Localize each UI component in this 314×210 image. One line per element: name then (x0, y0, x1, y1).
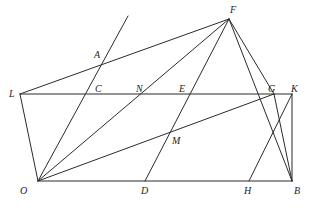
segment-F-O (38, 19, 229, 181)
point-label-L: L (9, 89, 15, 99)
segment-F-D (145, 19, 229, 181)
point-label-D: D (141, 186, 148, 196)
point-label-O: O (20, 186, 27, 196)
point-label-F: F (230, 5, 236, 15)
point-label-E: E (179, 84, 185, 94)
point-label-N: N (136, 84, 143, 94)
point-label-C: C (95, 84, 102, 94)
segment-L-O (20, 94, 38, 181)
segment-G-B (274, 94, 292, 181)
geometry-figure: L O A C N E M D H B F G K (0, 0, 314, 210)
point-label-G: G (268, 84, 275, 94)
segment-L-F (20, 19, 229, 94)
segments-group (20, 16, 292, 181)
point-label-A: A (94, 50, 100, 60)
point-label-M: M (172, 136, 180, 146)
point-label-H: H (244, 186, 251, 196)
segment-K-H (249, 94, 292, 181)
point-label-B: B (294, 186, 300, 196)
figure-canvas (0, 0, 314, 210)
segment-O-G (38, 94, 274, 181)
point-label-K: K (291, 84, 298, 94)
segment-T-O (38, 16, 128, 181)
